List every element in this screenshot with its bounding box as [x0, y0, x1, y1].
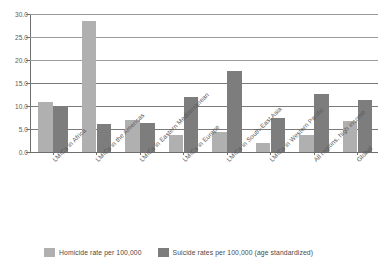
y-axis-tick-label: 20.0 [2, 57, 28, 64]
y-axis-tick-label: 30.0 [2, 11, 28, 18]
y-axis-tick-label: 5.0 [2, 126, 28, 133]
x-axis-tick-mark [314, 152, 315, 155]
bar-homicide [169, 135, 184, 152]
y-axis-tick-label: 25.0 [2, 34, 28, 41]
x-axis-tick-mark [357, 152, 358, 155]
bar-chart: 0.05.010.015.020.025.030.0 LMICs in Afri… [0, 0, 389, 277]
y-axis: 0.05.010.015.020.025.030.0 [0, 14, 28, 152]
bar-suicide [227, 71, 242, 152]
x-axis-tick-mark [53, 152, 54, 155]
x-axis-labels: LMICs in AfricaLMICs in the AmericasLMIC… [0, 156, 389, 241]
x-axis-tick-mark [227, 152, 228, 155]
y-axis-tick-label: 10.0 [2, 103, 28, 110]
x-axis-tick-mark [96, 152, 97, 155]
y-axis-tick-label: 15.0 [2, 80, 28, 87]
bar-group [38, 14, 68, 152]
x-axis-tick-mark [183, 152, 184, 155]
legend-label-suicide: Suicide rates per 100,000 (age standardi… [173, 249, 313, 256]
y-axis-tick-label: 0.0 [2, 149, 28, 156]
legend-item-homicide: Homicide rate per 100,000 [44, 248, 142, 257]
x-axis-tick-mark [270, 152, 271, 155]
bar-homicide [299, 135, 314, 152]
chart-legend: Homicide rate per 100,000 Suicide rates … [44, 248, 323, 257]
legend-item-suicide: Suicide rates per 100,000 (age standardi… [158, 248, 313, 257]
legend-swatch-homicide [44, 248, 55, 257]
x-axis-tick-mark [140, 152, 141, 155]
legend-label-homicide: Homicide rate per 100,000 [59, 249, 142, 256]
bar-homicide [256, 143, 271, 152]
bar-homicide [38, 102, 53, 152]
bar-suicide [358, 100, 373, 152]
legend-swatch-suicide [158, 248, 169, 257]
